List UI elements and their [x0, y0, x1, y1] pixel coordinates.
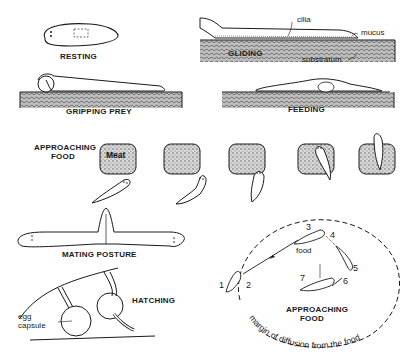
- path-worm-5: [336, 246, 353, 270]
- resting-planarian: [44, 24, 118, 46]
- path-worm-3: [294, 230, 325, 244]
- step-1: 1: [219, 280, 224, 290]
- step-6: 6: [343, 276, 348, 286]
- step-5: 5: [353, 263, 358, 273]
- mating-planarians: [18, 208, 184, 247]
- label-mucus: mucus: [361, 28, 385, 37]
- step-7: 7: [300, 273, 305, 283]
- approaching-worm-2: [176, 176, 206, 204]
- label-resting: RESTING: [60, 52, 97, 61]
- label-substratum: substratum: [302, 55, 342, 64]
- label-approaching-1: APPROACHING: [34, 143, 96, 152]
- label-hatching: HATCHING: [132, 296, 175, 305]
- label-food-small: food: [296, 246, 312, 255]
- meat-block-2: [164, 144, 200, 174]
- label-egg: egg: [18, 312, 31, 321]
- approaching-worm-3: [251, 172, 264, 203]
- feeding-planarian: [222, 79, 394, 108]
- label-cilia: cilia: [297, 15, 311, 24]
- label-capsule: capsule: [18, 321, 46, 330]
- label-food-2: FOOD: [300, 314, 324, 323]
- label-mating-posture: MATING POSTURE: [62, 250, 137, 259]
- step-3: 3: [306, 222, 311, 232]
- meat-block-3: [229, 144, 265, 174]
- label-gliding: GLIDING: [228, 49, 263, 58]
- label-feeding: FEEDING: [288, 105, 325, 114]
- step-2: 2: [246, 280, 251, 290]
- label-meat: Meat: [106, 150, 125, 160]
- step-4: 4: [330, 230, 335, 240]
- path-worm-7: [300, 264, 334, 291]
- approaching-worm-1: [92, 179, 130, 203]
- label-gripping-prey: GRIPPING PREY: [66, 107, 132, 116]
- label-approaching-2: APPROACHING: [286, 305, 348, 314]
- label-food-1: FOOD: [51, 152, 75, 161]
- gripping-prey-planarian: [20, 74, 182, 108]
